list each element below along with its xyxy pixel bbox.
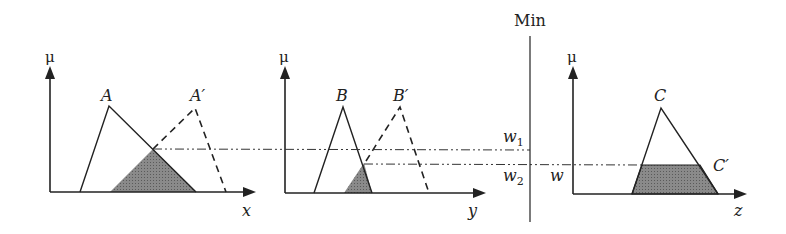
set-C-prime-label: C′ (713, 156, 729, 175)
arrow-up-icon (280, 66, 290, 79)
w2-label: w2 (503, 166, 524, 188)
fuzzy-inference-diagram: Min μ A A′ x μ B B′ y w1 w2 μ C C′ w z (0, 0, 786, 234)
set-A-prime-label: A′ (188, 86, 206, 105)
w2-level-line (364, 164, 642, 165)
set-A-label: A (99, 86, 113, 105)
arrow-right-icon (734, 189, 747, 199)
z-axis-label: z (733, 201, 743, 220)
set-B-prime-label: B′ (392, 86, 409, 105)
panel-y (280, 66, 486, 198)
mu-label-z: μ (567, 48, 577, 66)
set-B-label: B (335, 86, 348, 105)
arrow-up-icon (568, 66, 578, 79)
arrow-right-icon (473, 188, 486, 198)
shaded-region-y (344, 163, 372, 193)
mu-label-x: μ (45, 48, 55, 66)
panel-x (45, 66, 256, 197)
w-level-label: w (550, 166, 564, 185)
w1-label: w1 (503, 127, 524, 149)
shaded-region-z (632, 165, 718, 194)
set-C-label: C (654, 86, 666, 105)
arrow-right-icon (243, 187, 256, 197)
arrow-up-icon (45, 66, 55, 79)
shaded-region-x (110, 149, 196, 192)
y-axis-label: y (467, 201, 478, 220)
min-label: Min (514, 11, 546, 30)
mu-label-y: μ (279, 48, 289, 66)
x-axis-label: x (242, 201, 251, 220)
w1-level-line (153, 149, 530, 150)
